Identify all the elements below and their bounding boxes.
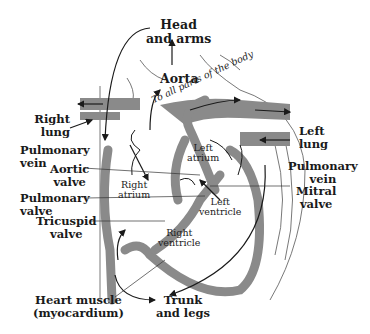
label-text: Head bbox=[146, 18, 211, 32]
label-right-atrium: Right atrium bbox=[118, 180, 150, 200]
label-left-lung: Left lung bbox=[299, 125, 328, 151]
label-pulmonary-vein-right: Pulmonary vein bbox=[288, 160, 358, 186]
label-text: atrium bbox=[118, 190, 150, 200]
label-left-atrium: Left atrium bbox=[187, 143, 219, 163]
label-text: lung bbox=[299, 138, 328, 151]
label-text: ventricle bbox=[158, 238, 201, 248]
label-text: (myocardium) bbox=[33, 307, 124, 320]
label-head-and-arms: Head and arms bbox=[146, 18, 211, 46]
label-text: and arms bbox=[146, 32, 211, 46]
label-text: valve bbox=[36, 228, 96, 241]
label-tricuspid-valve: Tricuspid valve bbox=[36, 215, 96, 241]
label-text: valve bbox=[296, 198, 336, 211]
label-text: ventricle bbox=[199, 207, 242, 217]
label-text: atrium bbox=[187, 153, 219, 163]
label-trunk-and-legs: Trunk and legs bbox=[156, 294, 210, 320]
label-text: and legs bbox=[156, 307, 210, 320]
label-aortic-valve: Aortic valve bbox=[50, 163, 89, 189]
label-text: lung bbox=[32, 126, 70, 139]
label-mitral-valve: Mitral valve bbox=[296, 185, 336, 211]
outline-lines bbox=[100, 55, 305, 300]
label-text: valve bbox=[50, 176, 89, 189]
label-right-lung: Right lung bbox=[32, 113, 70, 139]
label-heart-muscle: Heart muscle (myocardium) bbox=[33, 294, 124, 320]
label-right-ventricle: Right ventricle bbox=[158, 228, 201, 248]
label-left-ventricle: Left ventricle bbox=[199, 197, 242, 217]
